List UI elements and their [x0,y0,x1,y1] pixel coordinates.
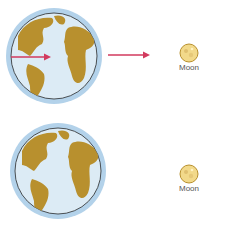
force-arrow-inner [10,52,52,62]
moon-top [179,43,199,63]
moon-icon [179,43,199,63]
earth-globe-icon [8,121,108,221]
force-arrow-outer [107,50,151,60]
earth-bottom [8,121,108,221]
moon-label-bottom: Moon [169,184,209,193]
moon-bottom [179,164,199,184]
moon-label-top: Moon [169,63,209,72]
moon-icon [179,164,199,184]
